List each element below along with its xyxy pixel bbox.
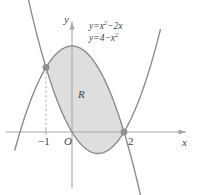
region-label-R: R — [78, 89, 85, 100]
intersection-point-2-0 — [121, 129, 128, 136]
origin-label: O — [64, 136, 72, 147]
intersection-point-minus-1-3 — [43, 64, 50, 71]
equation-2-exponent: 2 — [115, 31, 118, 38]
shaded-region-R — [46, 46, 124, 154]
y-axis-arrowhead — [69, 22, 74, 30]
x-axis-label: x — [182, 137, 187, 148]
x-tick-label-2: 2 — [128, 136, 134, 147]
y-axis-label: y — [64, 14, 69, 25]
equation-label-parabola-down: y=4−x2 — [89, 34, 118, 44]
x-axis-arrowhead — [179, 129, 187, 134]
equation-1-prefix: y=x — [89, 21, 104, 31]
figure-container: y x O −1 2 R y=x2−2x y=4−x2 — [0, 0, 197, 195]
equation-2-prefix: y=4−x — [89, 33, 115, 43]
x-tick-label-minus-1: −1 — [38, 136, 50, 147]
equation-1-suffix: −2x — [107, 21, 122, 31]
